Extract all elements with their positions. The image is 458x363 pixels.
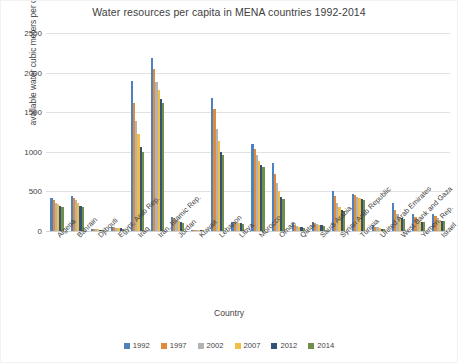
plot-area — [46, 33, 450, 231]
bar-group — [87, 33, 107, 231]
legend-label: 2002 — [207, 341, 224, 350]
bar-groups — [46, 33, 450, 231]
legend-label: 1997 — [170, 341, 187, 350]
bar-group — [268, 33, 288, 231]
legend-item[interactable]: 2007 — [235, 341, 261, 350]
bar — [162, 103, 164, 231]
bar-group — [348, 33, 368, 231]
bar-group — [67, 33, 87, 231]
bar-group — [168, 33, 188, 231]
legend-swatch-icon — [198, 343, 204, 349]
y-axis-tick-label: 1500 — [24, 108, 42, 117]
bar-group — [47, 33, 67, 231]
bar-group — [127, 33, 147, 231]
bar — [262, 167, 264, 231]
x-axis-tick-labels: AlgeriaBahrainDjiboutiEgypt, Arab Rep.Ir… — [46, 233, 450, 319]
legend-swatch-icon — [235, 343, 241, 349]
legend-swatch-icon — [308, 343, 314, 349]
bar-group — [308, 33, 328, 231]
y-axis-tick-label: 1000 — [24, 147, 42, 156]
bar — [222, 155, 224, 231]
legend-item[interactable]: 2002 — [198, 341, 224, 350]
y-axis-tick-label: 0 — [38, 227, 42, 236]
bar-group — [208, 33, 228, 231]
legend-swatch-icon — [161, 343, 167, 349]
bar-group — [248, 33, 268, 231]
bar-group — [228, 33, 248, 231]
legend-item[interactable]: 2012 — [271, 341, 297, 350]
x-axis-title: Country — [0, 308, 458, 318]
chart-legend: 199219972002200720122014 — [0, 341, 458, 350]
legend-item[interactable]: 1992 — [124, 341, 150, 350]
legend-label: 2012 — [280, 341, 297, 350]
legend-label: 2007 — [244, 341, 261, 350]
bar-group — [107, 33, 127, 231]
legend-item[interactable]: 2014 — [308, 341, 334, 350]
legend-item[interactable]: 1997 — [161, 341, 187, 350]
y-axis-tick-label: 2500 — [24, 29, 42, 38]
bar-group — [288, 33, 308, 231]
legend-label: 1992 — [133, 341, 150, 350]
bar-group — [328, 33, 348, 231]
legend-label: 2014 — [317, 341, 334, 350]
legend-swatch-icon — [271, 343, 277, 349]
bar-chart: Water resources per capita in MENA count… — [0, 0, 458, 363]
y-axis-tick-labels: 25002000150010005000 — [6, 33, 42, 231]
y-axis-tick-label: 500 — [29, 187, 42, 196]
legend-swatch-icon — [124, 343, 130, 349]
chart-title: Water resources per capita in MENA count… — [0, 6, 458, 18]
bar-group — [389, 33, 409, 231]
y-axis-tick-label: 2000 — [24, 68, 42, 77]
